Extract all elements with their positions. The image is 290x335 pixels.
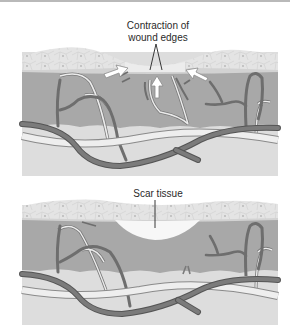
label-line-1: Contraction of: [110, 20, 206, 32]
panel-wound-contraction: [22, 40, 278, 176]
label-scar-text: Scar tissue: [133, 188, 182, 199]
skin-illustrations: [0, 0, 290, 335]
label-scar-tissue: Scar tissue: [118, 188, 198, 200]
label-contraction: Contraction of wound edges: [110, 20, 206, 44]
label-line-2: wound edges: [110, 32, 206, 44]
panel-scar: [22, 200, 278, 325]
